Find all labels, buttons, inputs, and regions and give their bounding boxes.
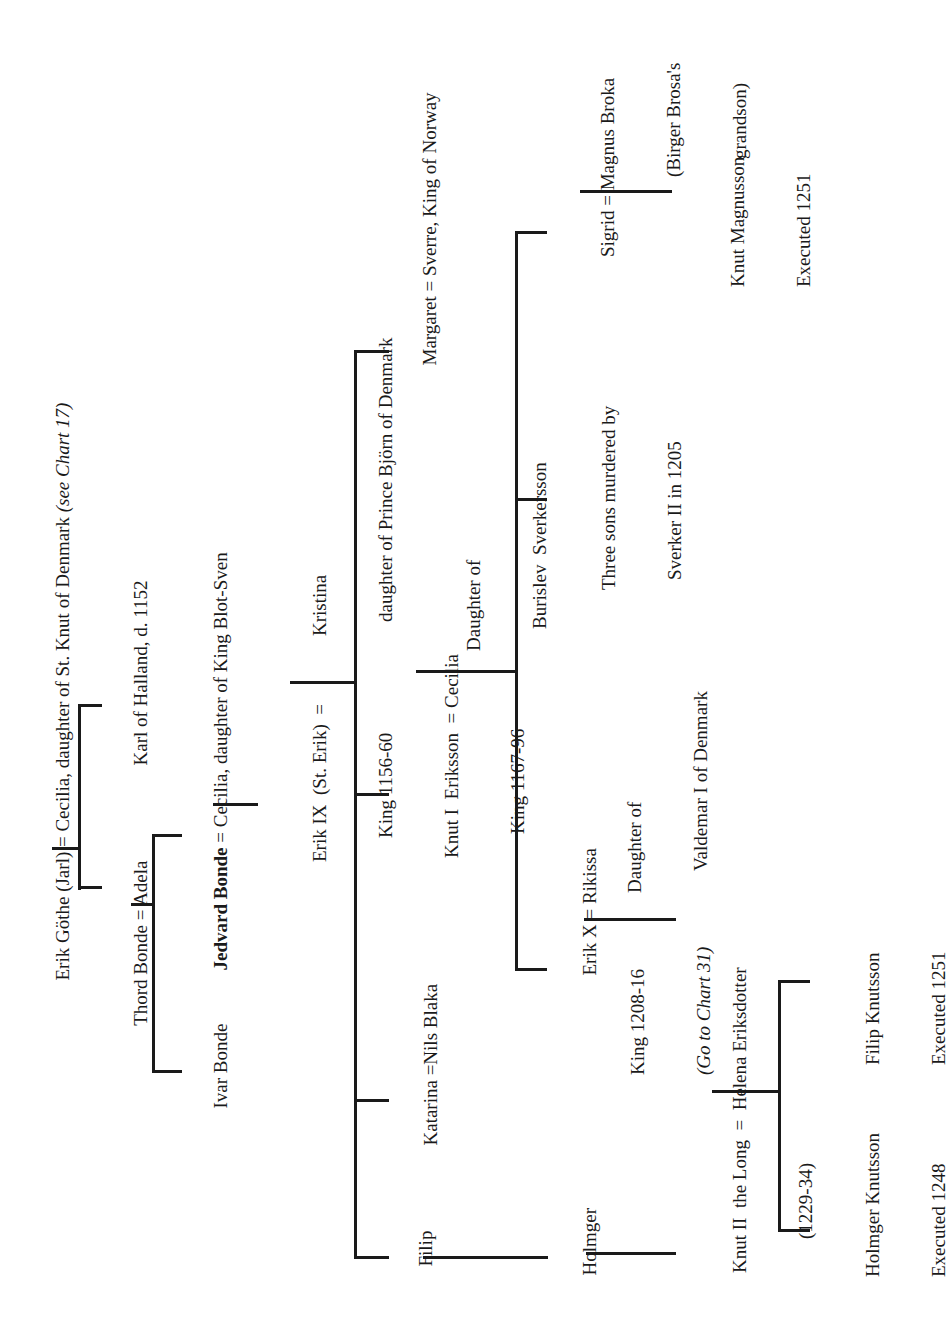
holmger-knutsson-line1: Holmger Knutsson [862, 1133, 884, 1277]
filip-text: Filip [415, 1231, 436, 1267]
katarina-text: Katarina =Nils Blaka [420, 984, 441, 1146]
rikissa-line3: Valdemar I of Denmark [690, 691, 712, 893]
three-sons-line1: Three sons murdered by [598, 406, 620, 590]
connector-line [515, 498, 547, 501]
erik-ix-line1: Erik IX (St. Erik) = [309, 695, 331, 862]
connector-line [213, 803, 258, 806]
knut-ii-line2: (1229-34) [795, 967, 817, 1273]
connector-line [152, 1070, 182, 1073]
filip: Filip [393, 1231, 437, 1276]
filip-knutsson: Filip Knutsson Executed 1251 [818, 952, 950, 1065]
sigrid-line2: (Birger Brosa's [663, 63, 685, 257]
connector-line [580, 190, 672, 193]
connector-line [515, 231, 547, 234]
holmger-text: Holmger [579, 1208, 600, 1276]
knut-i-eriksson: Knut I Eriksson = Cecilia King 1167-96 [397, 654, 551, 858]
connector-line [78, 704, 102, 707]
connector-line [416, 670, 516, 673]
cecilia-line3: Burislev Sverkersson [529, 462, 551, 651]
erik-gothe-couple-text: Erik Göthe (Jarl) = Cecilia, daughter of… [52, 512, 73, 980]
cecilia-daughter-of-burislev: Daughter of Burislev Sverkersson [419, 462, 573, 651]
knut-i-line1: Knut I Eriksson = Cecilia [441, 654, 463, 858]
rikissa-line2: Daughter of [624, 691, 646, 893]
knut-magnusson: Knut Magnusson Executed 1251 [683, 157, 837, 287]
erik-ix: Erik IX (St. Erik) = King 1156-60 [265, 695, 419, 862]
connector-line [586, 1252, 676, 1255]
connector-line [584, 918, 676, 921]
filip-knutsson-line2: Executed 1251 [928, 952, 950, 1065]
connector-line [152, 834, 155, 1072]
filip-knutsson-line1: Filip Knutsson [862, 952, 884, 1065]
ivar-bonde: Ivar Bonde [188, 1024, 232, 1118]
connector-line [152, 834, 182, 837]
margaret-text: Margaret = Sverre, King of Norway [419, 92, 440, 365]
connector-line [354, 1099, 389, 1102]
ivar-text: Ivar Bonde [210, 1024, 231, 1109]
knut-ii-the-long: Knut II the Long = Helena Eriksdotter (1… [685, 967, 839, 1273]
kristina-line2: daughter of Prince Björn of Denmark [375, 338, 397, 636]
cecilia-line2: Daughter of [463, 462, 485, 651]
connector-line [78, 704, 81, 890]
sigrid-line1: Sigrid = Magnus Broka [597, 63, 619, 257]
erik-ix-line2: King 1156-60 [375, 695, 397, 862]
rikissa-daughter-of-valdemar: Daughter of Valdemar I of Denmark [580, 691, 734, 893]
connector-line [515, 231, 518, 971]
knut-ii-line1: Knut II the Long = Helena Eriksdotter [729, 967, 751, 1273]
connector-line [52, 847, 80, 850]
connector-line [712, 1090, 780, 1093]
karl-text: Karl of Halland, d. 1152 [130, 580, 151, 765]
knut-magnusson-line1: Knut Magnusson [727, 157, 749, 287]
connector-line [515, 968, 547, 971]
knut-i-line2: King 1167-96 [507, 654, 529, 858]
katarina-nils-blaka: Katarina =Nils Blaka [398, 984, 442, 1155]
knut-magnusson-line2: Executed 1251 [793, 157, 815, 287]
connector-line [423, 1256, 548, 1259]
three-sons-murdered: Three sons murdered by Sverker II in 120… [554, 406, 708, 590]
three-sons-line2: Sverker II in 1205 [664, 406, 686, 590]
thord-bonde-text: Thord Bonde = Adela [130, 861, 151, 1026]
holmger: Holmger [557, 1208, 601, 1285]
kristina-line1: Kristina [309, 338, 331, 636]
connector-line [778, 980, 781, 1231]
holmger-knutsson: Holmger Knutsson Executed 1248 [818, 1133, 950, 1277]
connector-line [778, 980, 810, 983]
connector-line [354, 350, 389, 353]
connector-line [354, 793, 389, 796]
holmger-knutsson-line2: Executed 1248 [928, 1133, 950, 1277]
erik-gothe-cecilia-couple: Erik Göthe (Jarl) = Cecilia, daughter of… [30, 403, 74, 990]
kristina: Kristina daughter of Prince Björn of Den… [265, 338, 419, 636]
margaret-sverre: Margaret = Sverre, King of Norway [397, 92, 441, 375]
erik-x-line2: King 1208-16 [627, 947, 649, 1075]
connector-line [78, 886, 102, 889]
connector-line [778, 1229, 810, 1232]
jedvard-name: Jedvard Bonde [210, 848, 231, 971]
jedvard-bonde-cecilia: Jedvard Bonde = Cecilia, daughter of Kin… [188, 552, 232, 980]
connector-line [354, 350, 357, 1258]
connector-line [290, 681, 356, 684]
thord-bonde-adela: Thord Bonde = Adela [108, 861, 152, 1036]
see-chart-17-note: (see Chart 17) [52, 403, 73, 513]
karl-of-halland: Karl of Halland, d. 1152 [108, 580, 152, 775]
connector-line [354, 1256, 389, 1259]
